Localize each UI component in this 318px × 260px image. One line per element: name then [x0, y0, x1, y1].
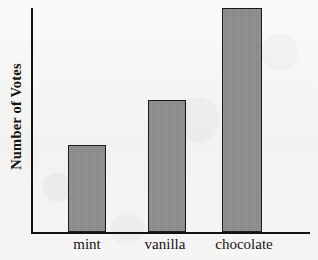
x-axis-line: [31, 232, 310, 234]
y-axis-label-text: Number of Votes: [8, 63, 25, 170]
x-label-mint: mint: [61, 236, 113, 253]
plot-area: [33, 8, 310, 232]
y-axis-label: Number of Votes: [0, 0, 32, 233]
bar-vanilla: [148, 100, 186, 232]
x-label-chocolate: chocolate: [203, 236, 285, 253]
bar-vanilla-texture: [149, 101, 185, 231]
bar-chocolate-texture: [223, 9, 261, 231]
bar-chart: Number of Votes mint vanilla chocolate: [0, 0, 318, 260]
bar-chocolate: [222, 8, 262, 232]
bar-mint-texture: [69, 146, 105, 231]
bar-mint: [68, 145, 106, 232]
x-label-vanilla: vanilla: [134, 236, 196, 253]
